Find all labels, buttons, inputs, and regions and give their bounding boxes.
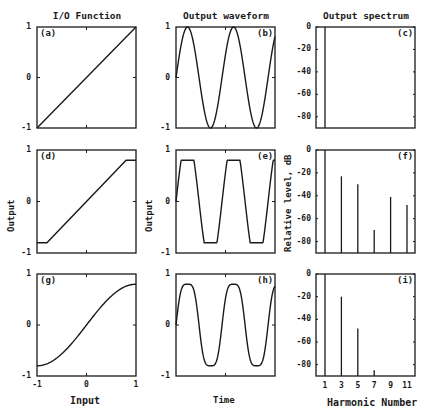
title-output-spectrum: Output spectrum bbox=[316, 10, 416, 21]
ytick-g-2: -1 bbox=[11, 371, 31, 380]
ytick-f-0: 0 bbox=[291, 145, 311, 154]
curve-a bbox=[37, 27, 136, 128]
panel-i bbox=[316, 274, 415, 376]
ytick-i-2: -40 bbox=[291, 314, 311, 323]
ytick-g-0: 1 bbox=[11, 269, 31, 278]
panel-h bbox=[176, 274, 275, 376]
ytick-i-0: 0 bbox=[291, 269, 311, 278]
ytick-c-1: -20 bbox=[291, 44, 311, 53]
panel-tag-d: (d) bbox=[40, 151, 56, 161]
panel-f bbox=[316, 150, 415, 253]
xlabel-harmonic-number: Harmonic Number bbox=[327, 397, 417, 408]
ytick-b-1: 0 bbox=[150, 73, 170, 82]
ytick-h-1: 0 bbox=[150, 320, 170, 329]
ytick-a-0: 1 bbox=[11, 22, 31, 31]
ytick-c-3: -60 bbox=[291, 89, 311, 98]
panel-tag-e: (e) bbox=[257, 151, 273, 161]
panel-tag-c: (c) bbox=[397, 28, 413, 38]
xtick-i-5: 11 bbox=[400, 381, 414, 390]
ytick-f-4: -80 bbox=[291, 237, 311, 246]
panel-a bbox=[37, 27, 136, 128]
ytick-g-1: 0 bbox=[11, 320, 31, 329]
panel-tag-f: (f) bbox=[397, 151, 413, 161]
xtick-i-1: 3 bbox=[334, 381, 348, 390]
ytick-d-1: 0 bbox=[11, 197, 31, 206]
title-io-function: I/O Function bbox=[37, 10, 137, 21]
ytick-a-2: -1 bbox=[11, 123, 31, 132]
xtick-i-4: 9 bbox=[384, 381, 398, 390]
curve-h bbox=[176, 284, 275, 366]
xtick-i-0: 1 bbox=[318, 381, 332, 390]
panel-b bbox=[176, 27, 275, 128]
panel-g bbox=[37, 274, 136, 376]
ytick-c-0: 0 bbox=[291, 22, 311, 31]
figure-canvas bbox=[0, 0, 428, 413]
ytick-i-4: -80 bbox=[291, 360, 311, 369]
title-output-waveform: Output waveform bbox=[176, 10, 276, 21]
xlabel-time: Time bbox=[213, 395, 235, 405]
ytick-f-2: -40 bbox=[291, 191, 311, 200]
curve-g bbox=[37, 284, 136, 366]
xtick-g-1: 0 bbox=[80, 380, 94, 389]
xtick-i-2: 5 bbox=[351, 381, 365, 390]
ytick-e-2: -1 bbox=[150, 248, 170, 257]
panel-tag-h: (h) bbox=[257, 275, 273, 285]
ytick-h-0: 1 bbox=[150, 269, 170, 278]
ytick-c-4: -80 bbox=[291, 112, 311, 121]
curve-d bbox=[37, 160, 136, 242]
ytick-i-3: -60 bbox=[291, 337, 311, 346]
curve-e bbox=[176, 160, 275, 242]
ytick-e-1: 0 bbox=[150, 197, 170, 206]
ytick-f-3: -60 bbox=[291, 214, 311, 223]
ytick-a-1: 0 bbox=[11, 73, 31, 82]
ytick-f-1: -20 bbox=[291, 168, 311, 177]
xlabel-input: Input bbox=[70, 395, 100, 406]
ytick-b-2: -1 bbox=[150, 123, 170, 132]
panel-c bbox=[316, 27, 415, 128]
ytick-d-0: 1 bbox=[11, 145, 31, 154]
ytick-d-2: -1 bbox=[11, 248, 31, 257]
ytick-b-0: 1 bbox=[150, 22, 170, 31]
xtick-g-0: -1 bbox=[30, 380, 44, 389]
xtick-g-2: 1 bbox=[129, 380, 143, 389]
panel-e bbox=[176, 150, 275, 253]
panel-tag-g: (g) bbox=[40, 275, 56, 285]
panel-tag-i: (i) bbox=[397, 275, 413, 285]
ytick-h-2: -1 bbox=[150, 371, 170, 380]
panel-d bbox=[37, 150, 136, 253]
ytick-e-0: 1 bbox=[150, 145, 170, 154]
ytick-c-2: -40 bbox=[291, 67, 311, 76]
curve-b bbox=[176, 27, 275, 128]
ytick-i-1: -20 bbox=[291, 292, 311, 301]
xtick-i-3: 7 bbox=[367, 381, 381, 390]
panel-tag-a: (a) bbox=[40, 28, 56, 38]
panel-tag-b: (b) bbox=[257, 28, 273, 38]
